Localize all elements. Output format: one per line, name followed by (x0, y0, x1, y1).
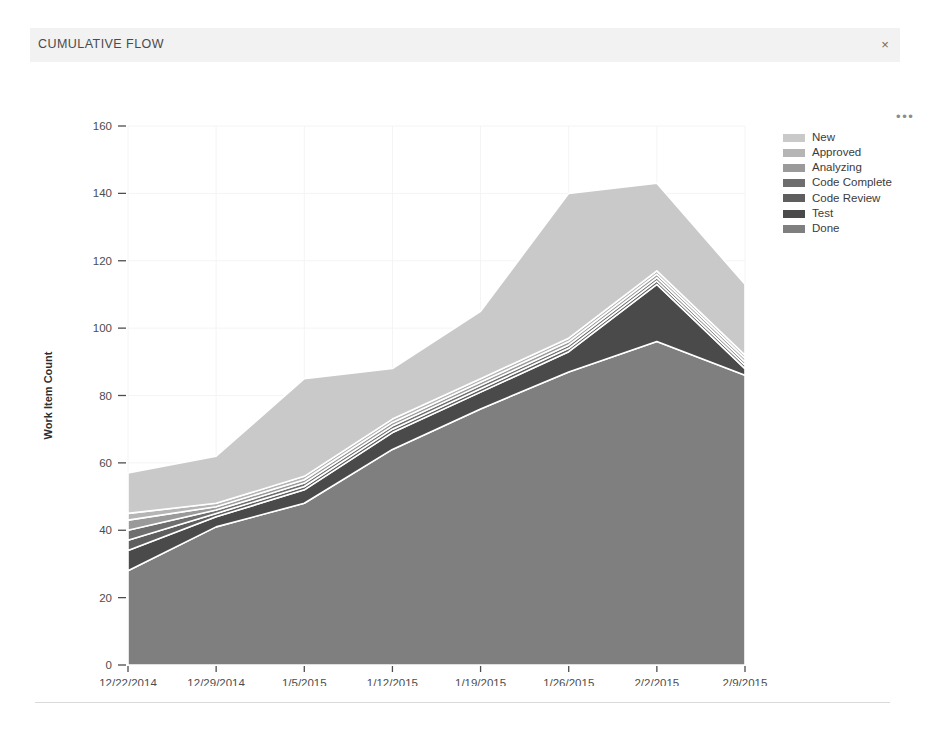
chart-areas (128, 183, 745, 665)
card-header: CUMULATIVE FLOW × (30, 28, 900, 62)
legend-item-label: Analyzing (812, 162, 862, 174)
svg-text:12/22/2014: 12/22/2014 (99, 677, 157, 686)
legend-item-done[interactable]: Done (783, 221, 930, 236)
legend-item-approved[interactable]: Approved (783, 145, 930, 160)
y-axis-title: Work Item Count (42, 351, 54, 439)
legend-item-code-complete[interactable]: Code Complete (783, 176, 930, 191)
svg-text:120: 120 (93, 255, 112, 267)
bottom-divider (35, 702, 890, 703)
legend-item-code-review[interactable]: Code Review (783, 191, 930, 206)
svg-text:100: 100 (93, 322, 112, 334)
legend-item-label: Done (812, 223, 840, 235)
legend-swatch-icon (783, 149, 805, 157)
svg-text:2/2/2015: 2/2/2015 (634, 677, 679, 686)
svg-text:12/29/2014: 12/29/2014 (187, 677, 245, 686)
legend-item-label: Approved (812, 147, 861, 159)
x-axis: 12/22/201412/29/20141/5/20151/12/20151/1… (99, 666, 767, 686)
legend-item-new[interactable]: New (783, 130, 930, 145)
chart-area: 020406080100120140160 12/22/201412/29/20… (30, 62, 900, 686)
svg-text:80: 80 (99, 390, 112, 402)
svg-text:1/19/2015: 1/19/2015 (455, 677, 506, 686)
svg-text:1/5/2015: 1/5/2015 (282, 677, 327, 686)
svg-text:1/12/2015: 1/12/2015 (367, 677, 418, 686)
legend-swatch-icon (783, 210, 805, 218)
legend-item-label: Test (812, 208, 833, 220)
legend-swatch-icon (783, 134, 805, 142)
legend-swatch-icon (783, 194, 805, 202)
legend-swatch-icon (783, 225, 805, 233)
screen: CUMULATIVE FLOW × ••• 020406080100120140… (0, 0, 930, 729)
svg-text:2/9/2015: 2/9/2015 (723, 677, 768, 686)
close-icon[interactable]: × (876, 35, 894, 53)
legend-swatch-icon (783, 164, 805, 172)
legend-item-test[interactable]: Test (783, 206, 930, 221)
legend-item-label: New (812, 132, 835, 144)
cumulative-flow-chart: 020406080100120140160 12/22/201412/29/20… (30, 62, 900, 686)
svg-text:60: 60 (99, 457, 112, 469)
svg-text:20: 20 (99, 592, 112, 604)
legend-item-analyzing[interactable]: Analyzing (783, 160, 930, 175)
cumulative-flow-card: CUMULATIVE FLOW × ••• 020406080100120140… (30, 28, 900, 686)
legend-item-label: Code Complete (812, 177, 892, 189)
chart-legend: NewApprovedAnalyzingCode CompleteCode Re… (783, 130, 930, 236)
svg-text:0: 0 (106, 659, 112, 671)
legend-item-label: Code Review (812, 193, 880, 205)
legend-swatch-icon (783, 179, 805, 187)
y-axis: 020406080100120140160 (93, 120, 126, 671)
svg-text:140: 140 (93, 187, 112, 199)
svg-text:1/26/2015: 1/26/2015 (543, 677, 594, 686)
svg-text:160: 160 (93, 120, 112, 132)
svg-text:40: 40 (99, 524, 112, 536)
page-title: CUMULATIVE FLOW (38, 37, 164, 51)
